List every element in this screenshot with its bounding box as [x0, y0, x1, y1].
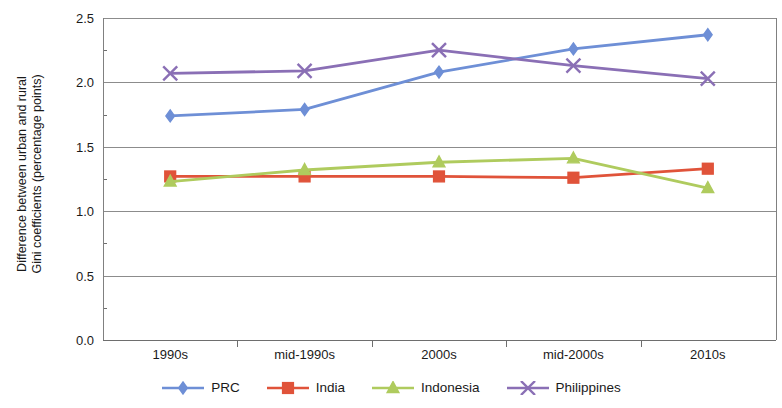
legend-item-india[interactable]: India: [266, 381, 345, 395]
series-prc: [166, 29, 712, 122]
data-point-square-marker: [282, 383, 293, 394]
legend-swatch-square-icon: [266, 381, 310, 395]
data-point-diamond-marker: [166, 110, 175, 122]
legend-item-philippines[interactable]: Philippines: [506, 381, 621, 395]
data-point-square-marker: [568, 172, 579, 183]
data-series-layer: [0, 0, 782, 408]
legend-label: Philippines: [556, 381, 621, 395]
data-point-diamond-marker: [179, 382, 188, 394]
data-point-diamond-marker: [435, 66, 444, 78]
data-point-diamond-marker: [569, 43, 578, 55]
legend-swatch-diamond-icon: [161, 381, 205, 395]
legend-item-indonesia[interactable]: Indonesia: [371, 381, 480, 395]
data-point-square-marker: [702, 163, 713, 174]
data-point-diamond-marker: [300, 103, 309, 115]
legend-label: PRC: [211, 381, 240, 395]
chart-legend: PRCIndiaIndonesiaPhilippines: [0, 374, 782, 402]
legend-swatch-triangle-icon: [371, 381, 415, 395]
legend-label: India: [316, 381, 345, 395]
data-point-square-marker: [434, 171, 445, 182]
legend-swatch-cross-icon: [506, 381, 550, 395]
data-point-diamond-marker: [703, 29, 712, 41]
legend-label: Indonesia: [421, 381, 480, 395]
legend-item-prc[interactable]: PRC: [161, 381, 240, 395]
line-chart: Difference between urban and rural Gini …: [0, 0, 782, 408]
